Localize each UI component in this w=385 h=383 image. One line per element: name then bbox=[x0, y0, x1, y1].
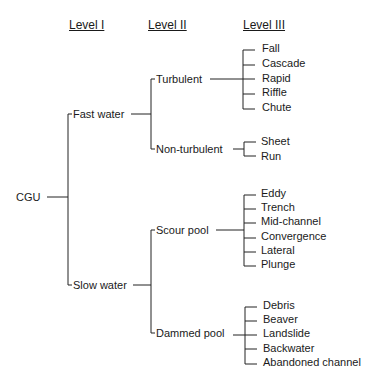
leaf-rapid: Rapid bbox=[262, 72, 291, 84]
node-slow-water: Slow water bbox=[73, 279, 127, 291]
leaf-sheet: Sheet bbox=[261, 135, 290, 147]
tree-connector-lines bbox=[0, 0, 385, 383]
node-fast-water: Fast water bbox=[73, 108, 124, 120]
leaf-eddy: Eddy bbox=[261, 187, 286, 199]
header-level-1: Level I bbox=[69, 19, 104, 32]
leaf-mid-channel: Mid-channel bbox=[261, 215, 321, 227]
leaf-beaver: Beaver bbox=[263, 313, 298, 325]
leaf-chute: Chute bbox=[262, 101, 291, 113]
node-non-turbulent: Non-turbulent bbox=[156, 143, 223, 155]
header-level-3: Level III bbox=[243, 19, 285, 32]
leaf-plunge: Plunge bbox=[261, 258, 295, 270]
leaf-backwater: Backwater bbox=[263, 342, 314, 354]
leaf-fall: Fall bbox=[262, 42, 280, 54]
leaf-trench: Trench bbox=[261, 201, 295, 213]
node-dammed-pool: Dammed pool bbox=[156, 327, 224, 339]
leaf-cascade: Cascade bbox=[262, 57, 305, 69]
leaf-debris: Debris bbox=[263, 299, 295, 311]
leaf-landslide: Landslide bbox=[263, 327, 310, 339]
leaf-run: Run bbox=[261, 150, 281, 162]
node-cgu: CGU bbox=[16, 191, 40, 203]
leaf-riffle: Riffle bbox=[262, 86, 287, 98]
leaf-convergence: Convergence bbox=[261, 230, 326, 242]
header-level-2: Level II bbox=[148, 19, 187, 32]
node-turbulent: Turbulent bbox=[156, 73, 202, 85]
leaf-lateral: Lateral bbox=[261, 244, 295, 256]
node-scour-pool: Scour pool bbox=[156, 224, 209, 236]
leaf-abandoned-channel: Abandoned channel bbox=[263, 356, 361, 368]
